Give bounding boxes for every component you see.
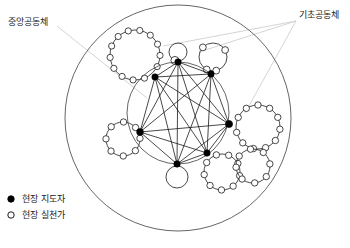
legend-label-field-leader: 현장 지도자 bbox=[22, 194, 66, 204]
field-practitioner-node bbox=[141, 75, 147, 81]
field-practitioner-node bbox=[218, 187, 224, 193]
field-practitioner-node bbox=[108, 124, 114, 130]
label-basic-community: 기초공동체 bbox=[299, 10, 339, 20]
field-leader-node bbox=[208, 71, 214, 77]
field-practitioner-node bbox=[233, 129, 239, 135]
field-practitioner-node bbox=[119, 73, 125, 79]
basic-community-group bbox=[103, 27, 283, 193]
field-practitioner-node bbox=[239, 176, 245, 182]
field-practitioner-node bbox=[111, 65, 117, 71]
network-edge bbox=[140, 77, 155, 132]
field-practitioner-node bbox=[260, 149, 266, 155]
field-practitioner-node bbox=[107, 54, 113, 60]
field-practitioner-node bbox=[154, 41, 160, 47]
network-diagram: 중앙공동체 기초공동체 현장 지도자 현장 실천가 bbox=[0, 0, 350, 248]
field-practitioner-node bbox=[230, 183, 236, 189]
field-practitioner-node bbox=[233, 164, 239, 170]
field-practitioner-node bbox=[108, 148, 114, 154]
field-practitioner-node bbox=[277, 126, 283, 132]
field-practitioner-node bbox=[125, 28, 131, 34]
network-edge bbox=[211, 74, 229, 124]
field-practitioner-node bbox=[266, 105, 272, 111]
field-practitioner-node bbox=[120, 119, 126, 125]
field-practitioner-node bbox=[201, 171, 207, 177]
field-leader-node bbox=[137, 129, 144, 136]
field-practitioner-node bbox=[213, 152, 219, 158]
legend: 현장 지도자 현장 실천가 bbox=[8, 194, 66, 220]
field-practitioner-node bbox=[235, 114, 241, 120]
field-practitioner-node bbox=[247, 146, 253, 152]
field-practitioner-node bbox=[137, 135, 143, 141]
field-practitioner-node bbox=[132, 147, 138, 153]
field-practitioner-node bbox=[255, 102, 261, 108]
field-practitioner-node bbox=[222, 47, 229, 54]
field-practitioner-node bbox=[267, 161, 273, 167]
field-practitioner-node bbox=[243, 105, 249, 111]
field-leader-node bbox=[174, 161, 180, 167]
field-practitioner-node bbox=[240, 140, 246, 146]
legend-label-field-practitioner: 현장 실천가 bbox=[22, 210, 65, 220]
annotation-leader-lines bbox=[57, 21, 296, 113]
field-practitioner-node bbox=[207, 182, 213, 188]
field-leader-node bbox=[152, 74, 158, 80]
field-practitioner-node bbox=[203, 159, 209, 165]
field-practitioner-node bbox=[157, 52, 163, 58]
legend-marker-filled-circle-icon bbox=[8, 196, 14, 202]
field-leader-node bbox=[175, 59, 181, 65]
label-central-community: 중앙공동체 bbox=[8, 16, 48, 27]
field-practitioner-node bbox=[199, 44, 206, 51]
field-leader-node bbox=[204, 150, 210, 156]
field-practitioner-node bbox=[137, 27, 143, 33]
network-edge bbox=[140, 124, 229, 132]
network-edge bbox=[155, 77, 177, 164]
legend-marker-open-circle-icon bbox=[8, 212, 14, 218]
field-practitioner-node bbox=[109, 43, 115, 49]
annotation-labels: 중앙공동체 기초공동체 bbox=[8, 10, 339, 27]
field-practitioner-node bbox=[251, 180, 257, 186]
field-practitioner-node bbox=[236, 153, 242, 159]
network-edge bbox=[155, 77, 229, 124]
field-practitioner-node bbox=[272, 137, 278, 143]
network-edge bbox=[207, 74, 211, 153]
field-practitioner-node bbox=[147, 32, 153, 38]
field-practitioner-node bbox=[103, 136, 109, 142]
field-practitioner-node bbox=[130, 77, 136, 83]
community-link bbox=[229, 124, 258, 127]
network-edge bbox=[140, 132, 177, 164]
field-leader-node bbox=[225, 120, 232, 127]
outer-boundary-circle bbox=[65, 5, 291, 231]
field-practitioner-node bbox=[120, 153, 126, 159]
network-edge bbox=[177, 62, 178, 164]
field-practitioner-node bbox=[225, 152, 231, 158]
field-practitioner-node bbox=[263, 173, 269, 179]
field-practitioner-node bbox=[115, 33, 121, 39]
field-practitioner-node bbox=[275, 114, 281, 120]
